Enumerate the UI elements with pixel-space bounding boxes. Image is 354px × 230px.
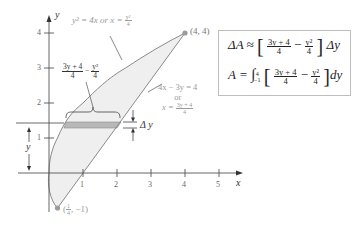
formula-rhs: Δy: [327, 37, 340, 52]
x-tick-label: 5: [216, 180, 220, 189]
y-tick-label: 2: [37, 98, 41, 107]
line-label-fraction: 3y + 4 4: [176, 102, 193, 115]
x-tick-label: 4: [182, 180, 186, 189]
bracket-open: [: [257, 35, 264, 57]
formula-lhs: ΔA ≈: [228, 37, 254, 52]
point-bottom-label: (14, −1): [63, 203, 88, 216]
integral-limits: 4−1: [254, 71, 260, 83]
x-tick-label: 2: [114, 180, 118, 189]
delta-y-label: Δ y: [140, 119, 153, 130]
frac-den: 4: [182, 109, 187, 115]
parabola-label-leader: [110, 36, 122, 60]
frac-den: 4: [126, 21, 131, 27]
frac-num: 3y + 4: [176, 102, 193, 109]
lower-limit: −1: [254, 77, 260, 83]
point-top-label: (4, 4): [190, 26, 210, 36]
horizontal-strip: [64, 122, 121, 128]
formula-delta-area: ΔA ≈ [ 3y + 4 4 − y² 4 ] Δy: [228, 35, 340, 58]
bracket-close: ]: [317, 35, 324, 57]
line-label-line3: x = 3y + 4 4: [158, 102, 197, 115]
line-label-or: or: [158, 92, 197, 102]
frac-den: 4: [70, 72, 76, 80]
y-axis-label: y: [55, 9, 59, 20]
formula-frac2: y² 4: [305, 38, 314, 56]
y-tick-label: 4: [37, 28, 41, 37]
frac-num: y²: [125, 14, 132, 21]
formula-box: ΔA ≈ [ 3y + 4 4 − y² 4 ] Δy A = ∫4−1 [ 3…: [218, 30, 351, 96]
parabola-label-fraction: y² 4: [125, 14, 132, 27]
frac-den: 4: [306, 47, 312, 56]
frac-den: 4: [313, 77, 319, 86]
minus-sign: −: [294, 37, 301, 52]
line-label-line1: 4x − 3y = 4: [158, 82, 197, 92]
y-axis-arrow-icon: [47, 15, 52, 22]
formula-rhs: dy: [330, 67, 342, 82]
strip-width-frac1: 3y + 4 4: [62, 63, 83, 79]
formula-frac1: 3y + 4 4: [267, 38, 291, 56]
frac-den: 4: [276, 47, 282, 56]
parabola-label-text: y² = 4x or x =: [72, 15, 125, 25]
paren-rest: , −1): [71, 204, 88, 214]
point-top: [182, 30, 187, 35]
height-y-label: y: [26, 141, 30, 152]
formula-lhs: A =: [228, 67, 248, 82]
formula-frac2: y² 4: [311, 68, 320, 86]
minus-sign: −: [85, 66, 89, 75]
strip-width-frac2: y² 4: [91, 63, 99, 79]
x-axis-arrow-icon: [236, 171, 243, 176]
formula-frac1: 3y + 4 4: [274, 68, 298, 86]
strip-width-label: 3y + 4 4 − y² 4: [62, 63, 99, 79]
y-tick-label: 3: [37, 63, 41, 72]
frac-den: 4: [92, 72, 98, 80]
frac-den: 4: [282, 77, 288, 86]
formula-area-integral: A = ∫4−1 [ 3y + 4 4 − y² 4 ]dy: [228, 65, 342, 88]
y-tick-label: 1: [37, 133, 41, 142]
point-bottom: [55, 205, 60, 210]
line-equation-label: 4x − 3y = 4 or x = 3y + 4 4: [158, 82, 197, 115]
x-tick-label: 1: [80, 180, 84, 189]
x-axis-label: x: [236, 177, 240, 188]
bracket-open: [: [264, 65, 271, 87]
line-label-lhs: x =: [162, 102, 176, 112]
x-tick-label: 3: [148, 180, 152, 189]
minus-sign: −: [301, 67, 308, 82]
parabola-equation-label: y² = 4x or x = y² 4: [72, 14, 132, 27]
